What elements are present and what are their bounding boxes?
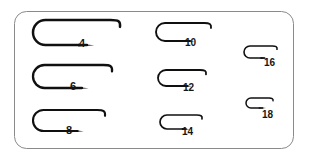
hook-size-8-label: 8 <box>66 125 72 136</box>
hook-size-chart: 4681012141618 <box>0 0 311 162</box>
hook-size-12-label: 12 <box>183 83 194 93</box>
hook-size-18-label: 18 <box>262 110 273 120</box>
hook-size-10-label: 10 <box>185 38 196 48</box>
chart-frame-border <box>15 12 294 149</box>
hook-diagram-canvas <box>0 0 311 162</box>
hook-size-14-label: 14 <box>182 127 193 137</box>
hook-size-6-label: 6 <box>70 81 76 92</box>
hook-size-4-label: 4 <box>79 38 85 49</box>
hook-size-16-label: 16 <box>264 58 275 68</box>
